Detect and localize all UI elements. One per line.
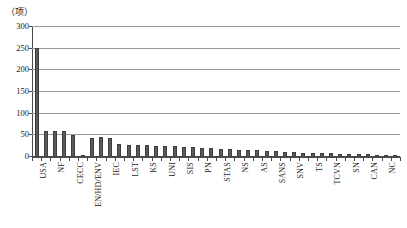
y-axis-tick-label: 200 [3, 65, 29, 74]
x-axis-tick-mark [170, 157, 171, 161]
bar [375, 155, 379, 156]
x-axis-tick-mark [115, 157, 116, 161]
x-axis-tick-mark [354, 157, 355, 161]
bar [62, 131, 66, 156]
bar [182, 147, 186, 156]
y-axis-tick-label: 0 [3, 152, 29, 161]
bar [90, 138, 94, 156]
x-axis-tick-mark [253, 157, 254, 161]
x-axis-tick-mark [106, 157, 107, 161]
plot-area [32, 26, 400, 156]
bar [347, 154, 351, 156]
bar [255, 150, 259, 156]
x-axis-tick-mark [50, 157, 51, 161]
y-axis-unit-label: （项） [6, 7, 33, 18]
bar [191, 147, 195, 156]
x-axis-tick-mark [326, 157, 327, 161]
x-axis-tick-label: CECC [77, 162, 85, 184]
x-axis-tick-mark [133, 157, 134, 161]
bar [200, 148, 204, 156]
x-axis-tick-mark [142, 157, 143, 161]
bar [53, 131, 57, 156]
x-axis-tick-labels: USANFCECCEN/HD/ENVIECLSTKSUNISISPNSTASNS… [32, 162, 400, 226]
bar [329, 153, 333, 156]
bar [99, 137, 103, 156]
x-axis-tick-mark [363, 157, 364, 161]
bar [108, 138, 112, 156]
x-axis-tick-mark [308, 157, 309, 161]
bar [136, 145, 140, 156]
bar [117, 144, 121, 156]
x-axis-tick-mark [87, 157, 88, 161]
bar [219, 149, 223, 156]
bar [44, 131, 48, 156]
bar [145, 145, 149, 156]
x-axis-tick-label: UNI [169, 162, 177, 177]
bar [127, 145, 131, 156]
bar [246, 150, 250, 156]
bar [35, 48, 39, 156]
x-axis-tick-mark [69, 157, 70, 161]
y-axis-tick-label: 50 [3, 130, 29, 139]
x-axis-tick-mark [216, 157, 217, 161]
bar [71, 135, 75, 156]
x-axis-tick-mark [179, 157, 180, 161]
x-axis-tick-label: SANS [279, 162, 287, 183]
x-axis-tick-mark [124, 157, 125, 161]
bar [173, 146, 177, 156]
x-axis-tick-mark [207, 157, 208, 161]
x-axis-tick-label: NC [389, 162, 397, 174]
bar [366, 154, 370, 156]
x-axis-tick-mark [96, 157, 97, 161]
x-axis-tick-mark [161, 157, 162, 161]
x-axis-tick-label: SN [353, 162, 361, 173]
bar [311, 153, 315, 156]
bar [163, 146, 167, 156]
bar [209, 148, 213, 156]
x-axis-tick-mark [60, 157, 61, 161]
bar [292, 152, 296, 156]
x-axis-tick-mark [244, 157, 245, 161]
y-axis-tick-label: 250 [3, 44, 29, 53]
bar [274, 151, 278, 156]
x-axis-tick-label: EN/HD/ENV [95, 162, 103, 207]
x-axis-tick-mark [198, 157, 199, 161]
x-axis-tick-mark [345, 157, 346, 161]
y-axis-tick-label: 150 [3, 87, 29, 96]
x-axis-tick-label: KS [150, 162, 158, 173]
x-axis-tick-mark [391, 157, 392, 161]
bar [237, 150, 241, 157]
x-axis-tick-mark [400, 157, 401, 161]
x-axis-tick-mark [32, 157, 33, 161]
x-axis-tick-label: NF [58, 162, 66, 173]
bar [228, 149, 232, 156]
x-axis-tick-label: NS [242, 162, 250, 173]
x-axis-tick-mark [299, 157, 300, 161]
y-axis-tick-label: 300 [3, 22, 29, 31]
bar [154, 146, 158, 156]
bar [393, 155, 397, 156]
bar [357, 154, 361, 156]
x-axis-tick-mark [262, 157, 263, 161]
x-axis-tick-label: AS [261, 162, 269, 173]
x-axis-tick-mark [41, 157, 42, 161]
x-axis-tick-label: CAN [371, 162, 379, 180]
x-axis-ticks [32, 157, 400, 161]
x-axis-tick-mark [290, 157, 291, 161]
x-axis-tick-mark [336, 157, 337, 161]
x-axis-tick-label: IEC [113, 162, 121, 176]
bar [384, 155, 388, 156]
x-axis-tick-label: USA [40, 162, 48, 179]
x-axis-tick-mark [372, 157, 373, 161]
bar-series [32, 26, 400, 156]
bar [320, 153, 324, 156]
x-axis-tick-label: STAS [224, 162, 232, 182]
x-axis-tick-mark [382, 157, 383, 161]
x-axis-tick-mark [280, 157, 281, 161]
bar [265, 151, 269, 156]
x-axis-tick-mark [152, 157, 153, 161]
x-axis-tick-mark [234, 157, 235, 161]
x-axis-tick-label: SIS [187, 162, 195, 174]
x-axis-tick-mark [225, 157, 226, 161]
x-axis-tick-mark [271, 157, 272, 161]
